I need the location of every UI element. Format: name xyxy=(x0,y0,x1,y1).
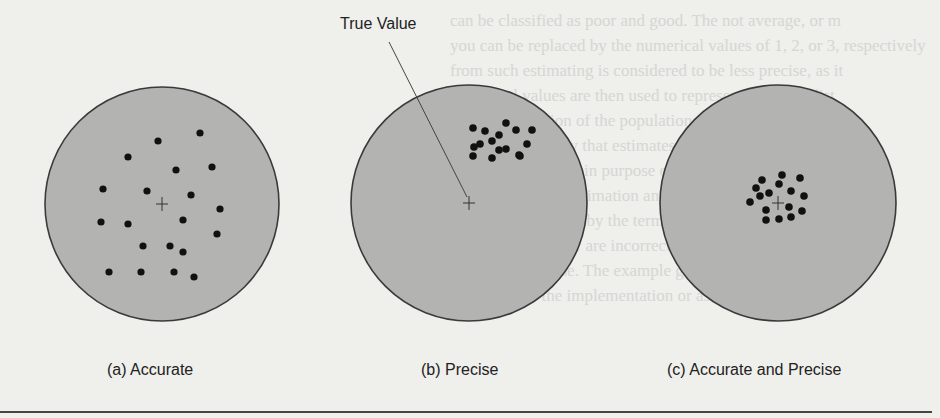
measurement-dot xyxy=(488,137,496,145)
measurement-dot xyxy=(208,163,215,170)
measurement-dot xyxy=(179,216,186,223)
measurement-dot xyxy=(756,192,764,200)
measurement-dot xyxy=(775,215,783,223)
measurement-dot xyxy=(196,129,203,136)
measurement-dot xyxy=(746,198,754,206)
measurement-dot xyxy=(172,166,179,173)
measurement-dot xyxy=(170,268,177,275)
measurement-dot xyxy=(213,230,220,237)
target-panel-b xyxy=(351,85,587,321)
measurement-dot xyxy=(775,180,783,188)
measurement-dot xyxy=(143,187,150,194)
measurement-dot xyxy=(97,218,104,225)
measurement-dot xyxy=(762,216,770,224)
measurement-dot xyxy=(778,171,786,179)
measurement-dot xyxy=(105,268,112,275)
measurement-dot xyxy=(481,127,489,135)
measurement-dot xyxy=(166,242,173,249)
caption-accurate-and-precise: (c) Accurate and Precise xyxy=(667,361,841,379)
measurement-dot xyxy=(516,152,524,160)
measurement-dot xyxy=(469,152,477,160)
measurement-dot xyxy=(765,189,773,197)
measurement-dot xyxy=(469,124,477,132)
measurement-dot xyxy=(528,126,536,134)
measurement-dot xyxy=(495,146,503,154)
bottom-rule xyxy=(0,411,932,413)
measurement-dot xyxy=(752,184,760,192)
measurement-dot xyxy=(800,192,808,200)
measurement-dot xyxy=(502,145,510,153)
measurement-dot xyxy=(798,207,806,215)
measurement-dot xyxy=(154,137,161,144)
measurement-dot xyxy=(190,273,197,280)
target-panel-a xyxy=(45,87,279,321)
measurement-dot xyxy=(137,268,144,275)
measurement-dot xyxy=(470,143,478,151)
measurement-dot xyxy=(512,126,520,134)
measurement-dot xyxy=(179,248,186,255)
measurement-dot xyxy=(787,213,795,221)
measurement-dot xyxy=(796,174,804,182)
measurement-dot xyxy=(99,185,106,192)
target-panel-c xyxy=(660,85,896,321)
measurement-dot xyxy=(523,140,531,148)
target-diagram xyxy=(0,0,940,418)
measurement-dot xyxy=(216,205,223,212)
measurement-dot xyxy=(139,242,146,249)
true-value-annotation: True Value xyxy=(340,15,416,33)
measurement-dot xyxy=(187,191,194,198)
measurement-dot xyxy=(488,154,496,162)
measurement-dot xyxy=(124,153,131,160)
measurement-dot xyxy=(495,131,503,139)
measurement-dot xyxy=(785,203,793,211)
caption-accurate: (a) Accurate xyxy=(107,361,193,379)
measurement-dot xyxy=(502,119,510,127)
measurement-dot xyxy=(787,187,795,195)
measurement-dot xyxy=(758,176,766,184)
caption-precise: (b) Precise xyxy=(421,361,498,379)
measurement-dot xyxy=(124,220,131,227)
measurement-dot xyxy=(762,206,770,214)
